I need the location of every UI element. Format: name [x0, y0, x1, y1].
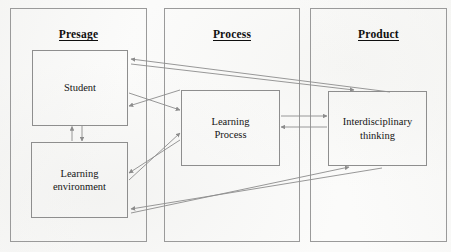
panel-process-title-text: Process: [213, 28, 251, 41]
node-learning-process-label: Learning Process: [209, 115, 253, 142]
node-interdisciplinary-thinking-label: Interdisciplinary thinking: [340, 115, 415, 142]
panel-product-title-text: Product: [358, 28, 399, 41]
node-interdisciplinary-thinking[interactable]: Interdisciplinary thinking: [328, 91, 427, 166]
panel-process-title: Process: [165, 28, 299, 41]
node-interdisciplinary-thinking-label-line1: Interdisciplinary: [343, 116, 412, 127]
node-learning-process-label-line2: Process: [214, 129, 246, 140]
node-learning-process-label-line1: Learning: [212, 116, 250, 127]
node-student[interactable]: Student: [32, 50, 128, 126]
panel-presage-title-text: Presage: [59, 28, 99, 41]
panel-product-title: Product: [311, 28, 446, 41]
panel-presage-title: Presage: [11, 28, 146, 41]
node-interdisciplinary-thinking-label-line2: thinking: [360, 130, 395, 141]
node-learning-process[interactable]: Learning Process: [181, 90, 280, 166]
node-learning-environment-label-line2: environment: [53, 181, 106, 192]
node-learning-environment-label-line1: Learning: [61, 168, 99, 179]
node-learning-environment[interactable]: Learning environment: [31, 142, 128, 218]
diagram-canvas: Presage Process Product: [0, 0, 451, 252]
node-student-label: Student: [61, 81, 99, 94]
node-learning-environment-label: Learning environment: [50, 167, 109, 194]
